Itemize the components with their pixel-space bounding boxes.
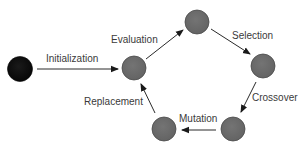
- label-replacement: Replacement: [84, 96, 143, 107]
- label-selection: Selection: [232, 30, 273, 41]
- selection-node: [251, 54, 275, 78]
- label-mutation: Mutation: [179, 113, 217, 124]
- population-node: [185, 10, 209, 34]
- mutation-node: [152, 117, 176, 141]
- start-node: [8, 57, 33, 82]
- crossover-node: [221, 117, 245, 141]
- label-initialization: Initialization: [46, 53, 98, 64]
- ga-cycle-diagram: Initialization Evaluation Selection Cros…: [0, 0, 306, 151]
- edge-replacement: [141, 84, 155, 113]
- label-crossover: Crossover: [252, 92, 298, 103]
- label-evaluation: Evaluation: [111, 34, 158, 45]
- evaluation-node: [122, 56, 146, 80]
